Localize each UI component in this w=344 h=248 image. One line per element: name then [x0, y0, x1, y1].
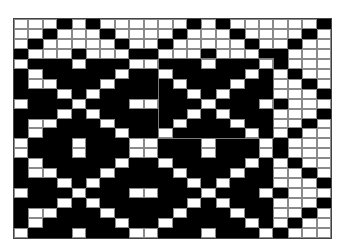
filled-cell[interactable] — [129, 109, 143, 119]
empty-cell[interactable] — [288, 148, 302, 158]
empty-cell[interactable] — [28, 218, 42, 228]
empty-cell[interactable] — [273, 198, 287, 208]
filled-cell[interactable] — [115, 59, 129, 69]
empty-cell[interactable] — [216, 39, 230, 49]
empty-cell[interactable] — [129, 228, 143, 238]
filled-cell[interactable] — [100, 218, 114, 228]
filled-cell[interactable] — [43, 99, 57, 109]
empty-cell[interactable] — [28, 29, 42, 39]
filled-cell[interactable] — [86, 69, 100, 79]
filled-cell[interactable] — [302, 79, 316, 89]
filled-cell[interactable] — [230, 228, 244, 238]
empty-cell[interactable] — [14, 148, 28, 158]
empty-cell[interactable] — [201, 99, 215, 109]
empty-cell[interactable] — [28, 208, 42, 218]
empty-cell[interactable] — [230, 119, 244, 129]
empty-cell[interactable] — [187, 39, 201, 49]
filled-cell[interactable] — [43, 158, 57, 168]
filled-cell[interactable] — [14, 128, 28, 138]
empty-cell[interactable] — [14, 59, 28, 69]
empty-cell[interactable] — [259, 29, 273, 39]
filled-cell[interactable] — [245, 119, 259, 129]
filled-cell[interactable] — [129, 198, 143, 208]
empty-cell[interactable] — [201, 188, 215, 198]
filled-cell[interactable] — [100, 29, 114, 39]
filled-cell[interactable] — [72, 198, 86, 208]
filled-cell[interactable] — [43, 178, 57, 188]
empty-cell[interactable] — [72, 29, 86, 39]
empty-cell[interactable] — [288, 198, 302, 208]
filled-cell[interactable] — [57, 59, 71, 69]
filled-cell[interactable] — [144, 178, 158, 188]
filled-cell[interactable] — [230, 89, 244, 99]
empty-cell[interactable] — [72, 99, 86, 109]
empty-cell[interactable] — [317, 99, 331, 109]
filled-cell[interactable] — [173, 188, 187, 198]
filled-cell[interactable] — [187, 228, 201, 238]
empty-cell[interactable] — [86, 49, 100, 59]
empty-cell[interactable] — [317, 39, 331, 49]
filled-cell[interactable] — [43, 59, 57, 69]
filled-cell[interactable] — [273, 59, 287, 69]
filled-cell[interactable] — [230, 148, 244, 158]
empty-cell[interactable] — [14, 19, 28, 29]
empty-cell[interactable] — [216, 198, 230, 208]
filled-cell[interactable] — [72, 168, 86, 178]
empty-cell[interactable] — [317, 168, 331, 178]
empty-cell[interactable] — [273, 158, 287, 168]
filled-cell[interactable] — [129, 89, 143, 99]
filled-cell[interactable] — [158, 119, 172, 129]
filled-cell[interactable] — [158, 188, 172, 198]
filled-cell[interactable] — [144, 109, 158, 119]
empty-cell[interactable] — [72, 148, 86, 158]
filled-cell[interactable] — [317, 19, 331, 29]
filled-cell[interactable] — [100, 158, 114, 168]
empty-cell[interactable] — [100, 79, 114, 89]
empty-cell[interactable] — [317, 218, 331, 228]
filled-cell[interactable] — [86, 128, 100, 138]
filled-cell[interactable] — [115, 188, 129, 198]
empty-cell[interactable] — [115, 19, 129, 29]
filled-cell[interactable] — [158, 89, 172, 99]
filled-cell[interactable] — [187, 19, 201, 29]
filled-cell[interactable] — [288, 158, 302, 168]
empty-cell[interactable] — [317, 138, 331, 148]
empty-cell[interactable] — [129, 29, 143, 39]
filled-cell[interactable] — [14, 49, 28, 59]
filled-cell[interactable] — [245, 228, 259, 238]
filled-cell[interactable] — [115, 89, 129, 99]
empty-cell[interactable] — [259, 148, 273, 158]
filled-cell[interactable] — [57, 188, 71, 198]
filled-cell[interactable] — [302, 208, 316, 218]
filled-cell[interactable] — [245, 138, 259, 148]
empty-cell[interactable] — [201, 138, 215, 148]
empty-cell[interactable] — [302, 178, 316, 188]
filled-cell[interactable] — [115, 178, 129, 188]
empty-cell[interactable] — [129, 39, 143, 49]
filled-cell[interactable] — [230, 218, 244, 228]
filled-cell[interactable] — [158, 79, 172, 89]
empty-cell[interactable] — [302, 69, 316, 79]
filled-cell[interactable] — [245, 198, 259, 208]
filled-cell[interactable] — [144, 79, 158, 89]
filled-cell[interactable] — [273, 138, 287, 148]
filled-cell[interactable] — [230, 138, 244, 148]
empty-cell[interactable] — [317, 158, 331, 168]
filled-cell[interactable] — [187, 168, 201, 178]
empty-cell[interactable] — [144, 188, 158, 198]
empty-cell[interactable] — [317, 79, 331, 89]
filled-cell[interactable] — [129, 119, 143, 129]
empty-cell[interactable] — [216, 89, 230, 99]
filled-cell[interactable] — [288, 69, 302, 79]
filled-cell[interactable] — [187, 128, 201, 138]
empty-cell[interactable] — [201, 29, 215, 39]
empty-cell[interactable] — [187, 89, 201, 99]
empty-cell[interactable] — [288, 59, 302, 69]
empty-cell[interactable] — [259, 188, 273, 198]
empty-cell[interactable] — [129, 19, 143, 29]
filled-cell[interactable] — [100, 89, 114, 99]
empty-cell[interactable] — [201, 19, 215, 29]
filled-cell[interactable] — [245, 59, 259, 69]
filled-cell[interactable] — [259, 69, 273, 79]
empty-cell[interactable] — [187, 49, 201, 59]
